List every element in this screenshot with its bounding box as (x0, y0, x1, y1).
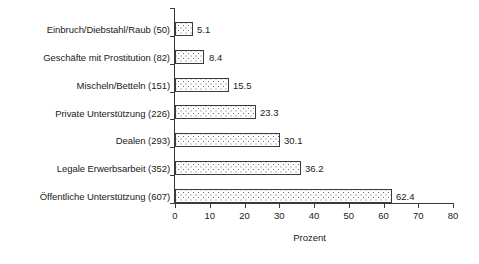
y-axis-tick (170, 36, 174, 37)
x-axis-title: Prozent (0, 232, 479, 243)
category-label: Private Unterstützung (226) (55, 108, 170, 119)
x-axis-tick (314, 204, 315, 208)
x-axis-tick-label: 40 (309, 210, 320, 221)
x-axis-tick (349, 204, 350, 208)
bar (175, 161, 301, 175)
y-axis-tick (170, 64, 174, 65)
x-axis-tick (245, 204, 246, 208)
bar (175, 105, 256, 119)
category-label: Legale Erwerbsarbeit (352) (57, 163, 170, 174)
bar-value-label: 15.5 (233, 80, 252, 91)
bar-chart: Einbruch/Diebstahl/Raub (50) Geschäfte m… (0, 0, 479, 264)
x-axis-tick (279, 204, 280, 208)
y-axis-tick (170, 8, 174, 9)
x-axis-tick-label: 10 (205, 210, 216, 221)
bar-value-label: 36.2 (305, 163, 324, 174)
category-label: Einbruch/Diebstahl/Raub (50) (47, 24, 170, 35)
x-axis-tick-label: 0 (172, 210, 177, 221)
x-axis-title-text: Prozent (293, 232, 326, 243)
x-axis-tick-label: 50 (344, 210, 355, 221)
y-axis-line (174, 8, 175, 204)
bar-value-label: 5.1 (197, 24, 210, 35)
bar (175, 189, 392, 203)
bar-value-label: 30.1 (284, 135, 303, 146)
category-label: Mischeln/Betteln (151) (77, 80, 170, 91)
y-axis-tick (170, 119, 174, 120)
y-axis-tick (170, 147, 174, 148)
bar (175, 133, 280, 147)
x-axis-tick (210, 204, 211, 208)
x-axis-tick (418, 204, 419, 208)
x-axis-tick (175, 204, 176, 208)
bar (175, 50, 204, 64)
y-axis-tick (170, 92, 174, 93)
bar-value-label: 62.4 (396, 191, 415, 202)
x-axis-tick-label: 30 (274, 210, 285, 221)
y-axis-tick (170, 175, 174, 176)
bar (175, 78, 229, 92)
bar-value-label: 23.3 (260, 107, 279, 118)
bar-value-label: 8.4 (209, 52, 222, 63)
x-axis-tick-label: 60 (378, 210, 389, 221)
category-label: Öffentliche Unterstützung (607) (40, 191, 170, 202)
x-axis-tick-label: 80 (448, 210, 459, 221)
category-label: Geschäfte mit Prostitution (82) (43, 52, 170, 63)
x-axis-tick-label: 20 (239, 210, 250, 221)
category-label: Dealen (293) (116, 135, 170, 146)
y-axis-tick (170, 203, 174, 204)
x-axis-tick (384, 204, 385, 208)
x-axis-tick (453, 204, 454, 208)
x-axis-tick-label: 70 (413, 210, 424, 221)
bar (175, 22, 193, 36)
